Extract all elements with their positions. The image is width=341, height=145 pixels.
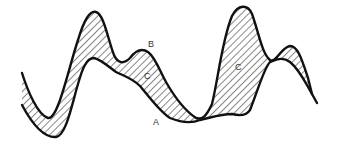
label-c-right: C: [235, 63, 242, 72]
label-a: A: [153, 118, 159, 127]
label-b: B: [148, 40, 154, 49]
label-c-left: C: [144, 72, 151, 81]
curves-diagram: [0, 0, 341, 145]
hatched-region-c: [22, 7, 312, 137]
